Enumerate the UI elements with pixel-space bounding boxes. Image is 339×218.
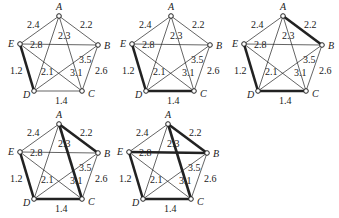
- vertex-label-e: E: [116, 146, 123, 157]
- edge-weight-ed: 1.2: [10, 173, 23, 184]
- vertex-c: [304, 89, 309, 94]
- vertex-a: [57, 122, 62, 127]
- edge-weight-bc: 2.6: [207, 65, 220, 76]
- vertex-label-b: B: [216, 40, 222, 51]
- edge-weight-ad: 2.1: [153, 66, 166, 77]
- graph-panel-3: 2.42.22.32.12.81.23.13.52.61.4ABCDE: [231, 1, 334, 106]
- vertex-label-c: C: [312, 88, 319, 99]
- vertex-label-a: A: [164, 109, 172, 120]
- edge-weight-ad: 2.1: [41, 174, 54, 185]
- edge-weight-ae: 2.4: [136, 127, 149, 138]
- edge-weight-ab: 2.2: [304, 19, 317, 30]
- graph-panel-4: 2.42.22.32.12.81.23.13.52.61.4ABCDE: [7, 109, 110, 214]
- vertex-label-a: A: [167, 1, 175, 12]
- edge-weight-ab: 2.2: [189, 127, 202, 138]
- edge-weight-ed: 1.2: [234, 65, 247, 76]
- graph-panel-2: 2.42.22.32.12.81.23.13.52.61.4ABCDE: [119, 1, 222, 106]
- edge-weight-dc: 1.4: [167, 95, 180, 106]
- vertex-label-c: C: [200, 88, 207, 99]
- edge-weight-db: 3.5: [79, 54, 92, 65]
- edge-weight-ec: 3.1: [70, 175, 83, 186]
- edge-weight-ed: 1.2: [10, 65, 23, 76]
- vertex-a: [281, 14, 286, 19]
- vertex-label-d: D: [22, 89, 31, 100]
- edge-weight-ac: 2.3: [167, 138, 180, 149]
- minimum-spanning-tree-diagram: 2.42.22.32.12.81.23.13.52.61.4ABCDE2.42.…: [0, 0, 339, 218]
- edge-weight-ae: 2.4: [139, 19, 152, 30]
- vertex-label-e: E: [231, 38, 238, 49]
- vertex-a: [166, 122, 171, 127]
- vertex-c: [189, 197, 194, 202]
- edge-weight-eb: 2.8: [30, 39, 43, 50]
- vertex-label-b: B: [328, 40, 334, 51]
- vertex-a: [57, 14, 62, 19]
- vertex-c: [192, 89, 197, 94]
- edge-weight-ae: 2.4: [27, 127, 40, 138]
- vertex-label-a: A: [55, 1, 63, 12]
- vertex-d: [256, 89, 261, 94]
- edge-weight-db: 3.5: [188, 162, 201, 173]
- vertex-label-a: A: [279, 1, 287, 12]
- edge-weight-ad: 2.1: [150, 174, 163, 185]
- edge-weight-eb: 2.8: [30, 147, 43, 158]
- edge-weight-eb: 2.8: [254, 39, 267, 50]
- edge-weight-dc: 1.4: [55, 203, 68, 214]
- edge-weight-ab: 2.2: [192, 19, 205, 30]
- vertex-b: [208, 43, 213, 48]
- vertex-d: [32, 89, 37, 94]
- edge-weight-ec: 3.1: [294, 67, 307, 78]
- edge-weight-dc: 1.4: [279, 95, 292, 106]
- edge-weight-ec: 3.1: [179, 175, 192, 186]
- vertex-b: [96, 151, 101, 156]
- edge-weight-ec: 3.1: [182, 67, 195, 78]
- vertex-label-d: D: [131, 197, 140, 208]
- vertex-d: [144, 89, 149, 94]
- vertex-label-e: E: [119, 38, 126, 49]
- vertex-e: [18, 150, 23, 155]
- edge-weight-ae: 2.4: [251, 19, 264, 30]
- edge-weight-ed: 1.2: [119, 173, 132, 184]
- edge-weight-ab: 2.2: [80, 19, 93, 30]
- edge-weight-bc: 2.6: [319, 65, 332, 76]
- vertex-b: [320, 43, 325, 48]
- vertex-label-c: C: [88, 196, 95, 207]
- vertex-e: [242, 42, 247, 47]
- vertex-label-b: B: [213, 148, 219, 159]
- edge-weight-ad: 2.1: [41, 66, 54, 77]
- edge-weight-ed: 1.2: [122, 65, 135, 76]
- edge-weight-ec: 3.1: [70, 67, 83, 78]
- vertex-label-e: E: [7, 38, 14, 49]
- vertex-label-c: C: [88, 88, 95, 99]
- edge-weight-ad: 2.1: [265, 66, 278, 77]
- graph-panel-5: 2.42.22.32.12.81.23.13.52.61.4ABCDE: [116, 109, 219, 214]
- edge-weight-dc: 1.4: [55, 95, 68, 106]
- vertex-c: [80, 197, 85, 202]
- edge-weight-db: 3.5: [79, 162, 92, 173]
- vertex-label-e: E: [7, 146, 14, 157]
- vertex-a: [169, 14, 174, 19]
- vertex-label-d: D: [246, 89, 255, 100]
- vertex-b: [205, 151, 210, 156]
- vertex-c: [80, 89, 85, 94]
- edge-weight-bc: 2.6: [95, 65, 108, 76]
- vertex-b: [96, 43, 101, 48]
- vertex-e: [18, 42, 23, 47]
- edge-weight-db: 3.5: [303, 54, 316, 65]
- vertex-label-d: D: [22, 197, 31, 208]
- vertex-label-d: D: [134, 89, 143, 100]
- edge-weight-bc: 2.6: [204, 173, 217, 184]
- edge-weight-ac: 2.3: [170, 30, 183, 41]
- vertex-e: [130, 42, 135, 47]
- vertex-label-b: B: [104, 148, 110, 159]
- vertex-label-a: A: [55, 109, 63, 120]
- vertex-label-b: B: [104, 40, 110, 51]
- graph-panel-1: 2.42.22.32.12.81.23.13.52.61.4ABCDE: [7, 1, 110, 106]
- vertex-d: [32, 197, 37, 202]
- edge-weight-dc: 1.4: [164, 203, 177, 214]
- edge-weight-ab: 2.2: [80, 127, 93, 138]
- edge-weight-ac: 2.3: [282, 30, 295, 41]
- edge-weight-bc: 2.6: [95, 173, 108, 184]
- edge-weight-ae: 2.4: [27, 19, 40, 30]
- edge-weight-ac: 2.3: [58, 138, 71, 149]
- vertex-d: [141, 197, 146, 202]
